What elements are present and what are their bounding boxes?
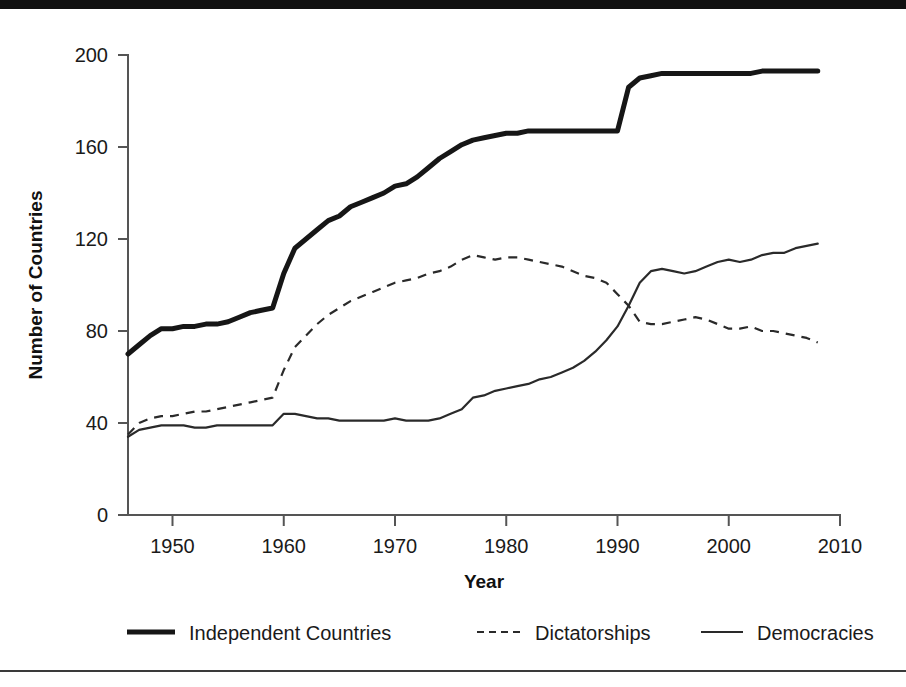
legend-label: Independent Countries xyxy=(189,622,391,644)
y-axis-tick-label: 160 xyxy=(75,136,108,158)
x-axis-title: Year xyxy=(464,571,505,592)
x-axis-tick-marks xyxy=(173,515,841,526)
x-axis-tick-label: 1990 xyxy=(595,535,640,557)
x-axis-tick-label: 1970 xyxy=(373,535,418,557)
y-axis-tick-marks xyxy=(118,55,128,515)
series-line-democracies xyxy=(128,244,818,437)
y-axis-tick-label: 40 xyxy=(86,412,108,434)
legend-item[interactable]: Dictatorships xyxy=(477,622,651,644)
y-axis-tick-labels: 04080120160200 xyxy=(75,44,108,526)
x-axis-tick-labels: 1950196019701980199020002010 xyxy=(150,535,862,557)
legend-label: Democracies xyxy=(757,622,874,644)
y-axis-title: Number of Countries xyxy=(25,191,46,380)
x-axis-tick-label: 1980 xyxy=(484,535,529,557)
legend-item[interactable]: Democracies xyxy=(701,622,874,644)
legend-label: Dictatorships xyxy=(535,622,651,644)
y-axis-tick-label: 0 xyxy=(97,504,108,526)
series-line-dictatorships xyxy=(128,255,818,434)
line-chart: 04080120160200 1950196019701980199020002… xyxy=(0,0,906,687)
chart-legend: Independent CountriesDictatorshipsDemocr… xyxy=(127,622,874,644)
x-axis-tick-label: 1950 xyxy=(150,535,195,557)
y-axis-tick-label: 200 xyxy=(75,44,108,66)
x-axis-tick-label: 2010 xyxy=(818,535,863,557)
x-axis-tick-label: 2000 xyxy=(707,535,752,557)
y-axis-tick-label: 80 xyxy=(86,320,108,342)
legend-item[interactable]: Independent Countries xyxy=(127,622,391,644)
figure-container: 04080120160200 1950196019701980199020002… xyxy=(0,0,906,687)
data-series-group xyxy=(128,71,818,437)
chart-axes xyxy=(128,55,840,515)
y-axis-tick-label: 120 xyxy=(75,228,108,250)
x-axis-tick-label: 1960 xyxy=(262,535,307,557)
series-line-independent-countries xyxy=(128,71,818,354)
